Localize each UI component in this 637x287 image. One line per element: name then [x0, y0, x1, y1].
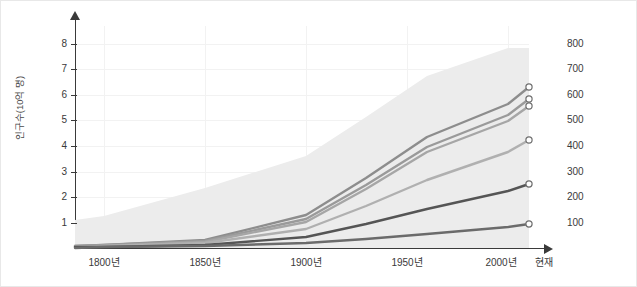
y-axis-left-title: 인구수(10억 명) [12, 48, 26, 168]
series-endpoint-marker [526, 96, 532, 102]
series-canvas [75, 26, 529, 248]
y2-tick-label-800: 800 [567, 39, 601, 49]
y-axis-arrow-icon [70, 11, 80, 20]
series-endpoint-marker [526, 137, 532, 143]
series-endpoint-marker [526, 181, 532, 187]
y2-tick-label-500: 500 [567, 115, 601, 125]
plot-area [75, 26, 529, 248]
y-tick-label-2: 2 [41, 192, 67, 202]
y-tick-label-1: 1 [41, 218, 67, 228]
y-tick-label-7: 7 [41, 64, 67, 74]
energy-range-band [75, 48, 529, 248]
series-endpoint-marker [526, 221, 532, 227]
y-tick-label-6: 6 [41, 90, 67, 100]
y2-tick-label-200: 200 [567, 192, 601, 202]
series-endpoint-marker [526, 84, 532, 90]
y-tick-label-3: 3 [41, 167, 67, 177]
y2-tick-label-300: 300 [567, 167, 601, 177]
y-tick-label-4: 4 [41, 141, 67, 151]
y2-tick-label-600: 600 [567, 90, 601, 100]
x-axis-arrow-icon [544, 244, 553, 254]
x-tick-label-present: 현재 [514, 257, 574, 268]
x-axis-line [75, 248, 545, 249]
x-tick-label-1900: 1900년 [276, 257, 336, 268]
y-tick-label-8: 8 [41, 39, 67, 49]
x-tick-label-1800: 1800년 [74, 257, 134, 268]
series-endpoint-marker [526, 103, 532, 109]
x-tick-label-1850: 1850년 [175, 257, 235, 268]
y2-tick-label-100: 100 [567, 218, 601, 228]
y2-tick-label-700: 700 [567, 64, 601, 74]
x-tick-label-1950: 1950년 [377, 257, 437, 268]
y-tick-label-5: 5 [41, 115, 67, 125]
y2-tick-label-400: 400 [567, 141, 601, 151]
chart-figure: 인구수(10억 명) 에너지 소비량(EJ) [0, 0, 637, 287]
